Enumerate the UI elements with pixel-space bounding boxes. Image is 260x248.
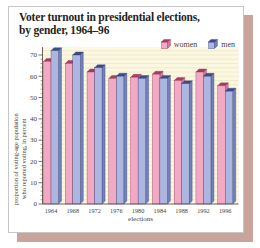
- chart-title: Voter turnout in presidential elections,…: [19, 11, 243, 37]
- figure-stage: 1964196819721976198019841988199219960102…: [0, 0, 260, 248]
- svg-text:0: 0: [34, 200, 38, 208]
- legend-item-men: men: [208, 39, 235, 49]
- y-axis-title: proportion of voting-age population who …: [12, 53, 28, 205]
- svg-text:1988: 1988: [175, 207, 188, 214]
- svg-text:50: 50: [30, 94, 38, 102]
- svg-text:1992: 1992: [197, 207, 210, 214]
- figure-card: 1964196819721976198019841988199219960102…: [8, 6, 244, 233]
- svg-text:1976: 1976: [110, 207, 123, 214]
- svg-text:1996: 1996: [219, 207, 232, 214]
- svg-text:1980: 1980: [132, 207, 145, 214]
- legend-item-women: women: [161, 39, 198, 49]
- chart-legend: women men: [161, 39, 235, 49]
- svg-text:1968: 1968: [66, 207, 79, 214]
- svg-text:1964: 1964: [45, 207, 58, 214]
- svg-text:40: 40: [30, 115, 38, 123]
- men-cube-icon: [208, 39, 218, 49]
- legend-label-women: women: [174, 40, 198, 49]
- legend-label-men: men: [221, 40, 235, 49]
- svg-text:70: 70: [30, 51, 38, 59]
- svg-text:30: 30: [30, 136, 38, 144]
- x-axis-title: elections: [42, 215, 239, 223]
- svg-text:1972: 1972: [88, 207, 101, 214]
- svg-text:1984: 1984: [154, 207, 167, 214]
- svg-text:20: 20: [30, 158, 38, 166]
- svg-text:60: 60: [30, 73, 38, 81]
- svg-text:10: 10: [30, 179, 38, 187]
- women-cube-icon: [161, 39, 171, 49]
